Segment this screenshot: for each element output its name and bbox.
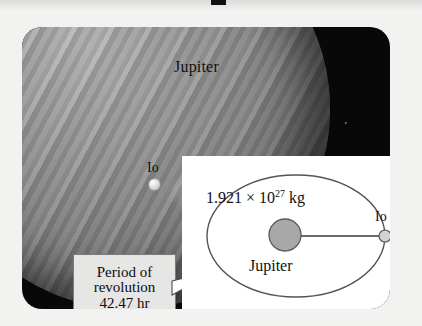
inset-planet-label: Jupiter	[249, 257, 293, 275]
photo-moon-dot	[149, 179, 160, 190]
photo-frame: Jupiter Io Period of revolution 42.47 hr	[22, 27, 390, 309]
period-of-revolution-callout: Period of revolution 42.47 hr	[73, 254, 176, 309]
inset-io-circle	[379, 230, 390, 242]
inset-moon-label: Io	[375, 209, 387, 225]
inset-mass-mantissa: 1.921 × 10	[206, 189, 275, 206]
photo-moon-label: Io	[147, 160, 159, 176]
inset-mass-unit: kg	[285, 189, 305, 206]
figure-page: Jupiter Io Period of revolution 42.47 hr	[0, 0, 422, 326]
photo-planet-label: Jupiter	[174, 58, 219, 76]
inset-mass-label: 1.921 × 1027 kg	[206, 188, 305, 207]
crop-mark	[211, 0, 226, 5]
period-callout-line2: revolution	[94, 280, 156, 295]
period-callout-line1: Period of	[97, 265, 152, 280]
inset-mass-exponent: 27	[275, 188, 285, 199]
inset-jupiter-circle	[269, 219, 301, 251]
orbit-svg	[182, 156, 390, 309]
inset-orbit-diagram: 1.921 × 1027 kg Jupiter Io	[182, 156, 390, 309]
period-callout-line3: 42.47 hr	[100, 296, 150, 309]
